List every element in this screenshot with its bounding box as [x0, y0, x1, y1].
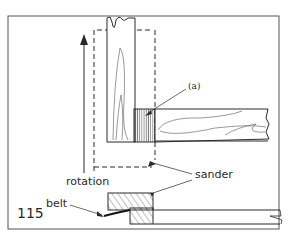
sander-assembly: [108, 193, 282, 224]
leader-sander-upper: [153, 163, 192, 174]
leader-sander-lower: [153, 180, 192, 193]
figure-number: 115: [17, 205, 44, 221]
label-part-a: (a): [188, 81, 200, 91]
vertical-board: [107, 17, 135, 142]
label-sander: sander: [195, 168, 233, 181]
rotation-arrow-icon: [80, 34, 88, 173]
dashed-corner-arrow-icon: [148, 161, 156, 167]
belt-arrow-icon: [97, 211, 104, 217]
horizontal-board: [155, 109, 269, 142]
label-rotation: rotation: [66, 175, 109, 188]
label-belt: belt: [46, 197, 67, 210]
